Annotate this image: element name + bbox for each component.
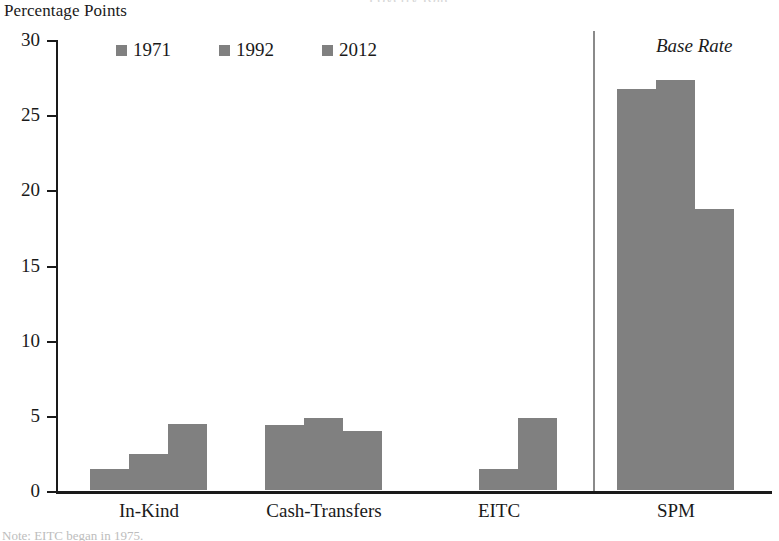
bar-cash-transfers-1992 bbox=[304, 418, 343, 490]
figure-title-clipped: Poverty Rate bbox=[200, 0, 620, 2]
plot-area: 051015202530 Base Rate bbox=[56, 40, 772, 492]
y-tick-mark bbox=[47, 40, 56, 42]
chart-note: Note: EITC began in 1975. bbox=[2, 528, 402, 541]
x-axis-label-eitc: EITC bbox=[409, 500, 589, 522]
y-tick-label: 30 bbox=[0, 30, 40, 49]
bar-chart: Poverty Rate Percentage Points 1971 1992… bbox=[0, 0, 779, 541]
group-separator bbox=[593, 31, 595, 491]
y-tick-label: 0 bbox=[0, 481, 40, 500]
bar-in-kind-2012 bbox=[168, 424, 207, 490]
base-rate-annotation: Base Rate bbox=[656, 35, 733, 57]
bar-in-kind-1992 bbox=[129, 454, 168, 490]
bar-spm-2012 bbox=[695, 209, 734, 490]
y-tick-label: 25 bbox=[0, 105, 40, 124]
x-axis-label-in-kind: In-Kind bbox=[59, 500, 239, 522]
y-tick-label: 5 bbox=[0, 406, 40, 425]
y-axis-title: Percentage Points bbox=[4, 1, 127, 21]
bar-eitc-1992 bbox=[479, 469, 518, 490]
y-tick-mark bbox=[47, 416, 56, 418]
y-tick-mark bbox=[47, 115, 56, 117]
bar-eitc-2012 bbox=[518, 418, 557, 490]
y-axis-line bbox=[56, 40, 58, 493]
y-tick-mark bbox=[47, 491, 56, 493]
y-tick-mark bbox=[47, 341, 56, 343]
y-tick-mark bbox=[47, 266, 56, 268]
y-tick-label: 10 bbox=[0, 331, 40, 350]
bar-cash-transfers-1971 bbox=[265, 425, 304, 490]
bar-in-kind-1971 bbox=[90, 469, 129, 490]
y-tick-mark bbox=[47, 190, 56, 192]
bar-cash-transfers-2012 bbox=[343, 431, 382, 490]
y-tick-label: 20 bbox=[0, 180, 40, 199]
bar-spm-1992 bbox=[656, 80, 695, 490]
y-tick-label: 15 bbox=[0, 256, 40, 275]
bar-spm-1971 bbox=[617, 89, 656, 490]
x-axis-line bbox=[56, 491, 772, 494]
x-axis-label-cash-transfers: Cash-Transfers bbox=[234, 500, 414, 522]
x-axis-label-spm: SPM bbox=[586, 500, 766, 522]
